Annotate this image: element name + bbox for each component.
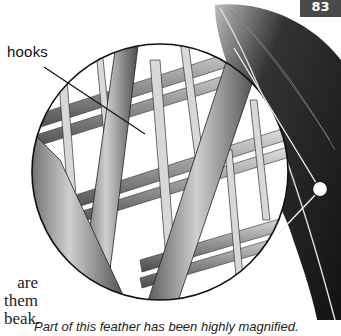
body-text-line: them bbox=[4, 292, 38, 310]
body-text-line: beak. bbox=[4, 310, 38, 328]
figure-caption: Part of this feather has been highly mag… bbox=[34, 319, 334, 334]
body-text-line: are bbox=[4, 274, 38, 292]
body-text-fragment: are them beak. bbox=[4, 274, 38, 328]
hooks-label: hooks bbox=[7, 43, 48, 60]
magnify-origin-marker bbox=[313, 182, 328, 197]
feather-magnification-illustration bbox=[0, 0, 341, 320]
